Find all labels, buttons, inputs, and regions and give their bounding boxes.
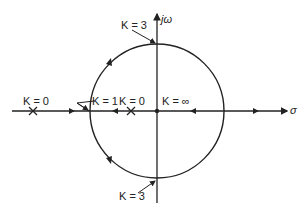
- arrow-left-1: [112, 108, 118, 114]
- arrow-right-2: [253, 108, 259, 114]
- label-k0-right: K = 0: [119, 96, 145, 107]
- leader-k1-b: [77, 103, 88, 110]
- label-kinf: K = ∞: [162, 96, 190, 107]
- label-imag-axis: jω: [161, 14, 172, 25]
- arrow-left-2: [190, 108, 196, 114]
- label-k3-top: K = 3: [121, 20, 147, 31]
- origin-point: [155, 109, 159, 113]
- arrow-circle-top: [106, 58, 112, 66]
- label-k0-left: K = 0: [23, 96, 49, 107]
- root-locus-diagram: [0, 0, 305, 214]
- label-real-axis: σ: [290, 105, 297, 116]
- label-k3-bottom: K = 3: [119, 191, 145, 202]
- arrow-right-1: [69, 108, 75, 114]
- arrow-circle-bottom: [106, 156, 112, 164]
- leader-k3-top: [132, 30, 155, 43]
- label-k1: K = 1: [92, 96, 118, 107]
